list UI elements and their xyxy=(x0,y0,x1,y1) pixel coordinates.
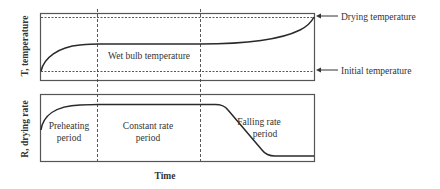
constant-rate-period-label-2: period xyxy=(136,133,161,143)
constant-rate-period-label-1: Constant rate xyxy=(123,121,173,131)
time-axis-label: Time xyxy=(155,171,176,181)
initial-temperature-label: Initial temperature xyxy=(341,66,411,76)
temperature-curve xyxy=(41,17,314,71)
initial-temperature-arrow-icon xyxy=(316,68,338,73)
preheating-period-label-1: Preheating xyxy=(49,121,90,131)
temperature-panel-frame xyxy=(41,14,315,81)
drying-temperature-label: Drying temperature xyxy=(341,12,416,22)
preheating-period-label-2: period xyxy=(57,133,82,143)
wet-bulb-label: Wet bulb temperature xyxy=(108,51,190,61)
falling-rate-period-label-2: period xyxy=(253,129,278,139)
drying-rate-axis-label: R, drying rate xyxy=(20,100,30,157)
temperature-axis-label: T, temperature xyxy=(20,16,30,77)
falling-rate-period-label-1: Falling rate xyxy=(237,117,281,127)
drying-diagram: Drying temperature Initial temperature W… xyxy=(0,0,440,189)
drying-temperature-arrow-icon xyxy=(316,14,338,19)
